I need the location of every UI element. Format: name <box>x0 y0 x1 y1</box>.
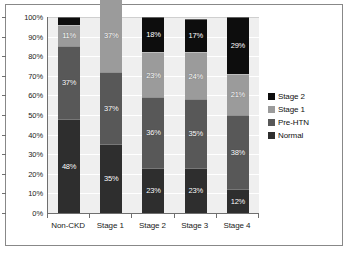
bar-segment-label: 37% <box>104 105 118 113</box>
stacked-bar[interactable]: 35%37%37%11% <box>100 17 122 213</box>
bar-segment[interactable]: 23% <box>142 168 164 213</box>
bar-segment-label: 36% <box>146 129 160 137</box>
y-tick-mark <box>2 17 6 18</box>
bar-segment[interactable]: 48% <box>58 119 80 213</box>
bar-segment-label: 11% <box>62 32 76 40</box>
legend-swatch-icon <box>268 93 275 100</box>
y-tick-mark <box>2 37 6 38</box>
y-tick-mark <box>2 115 6 116</box>
bar-segment-label: 35% <box>104 175 118 183</box>
bar-segment[interactable]: 12% <box>227 189 249 213</box>
bar-segment[interactable]: 37% <box>100 72 122 145</box>
bar-segment[interactable]: 11% <box>58 25 80 47</box>
bar-column: 35%37%37%11% <box>90 17 132 213</box>
bar-segment-label: 37% <box>62 79 76 87</box>
bar-segment[interactable]: 35% <box>185 99 207 168</box>
bar-segment[interactable] <box>58 17 80 25</box>
bar-segment-label: 48% <box>62 163 76 171</box>
legend-swatch-icon <box>268 119 275 126</box>
x-tick-label: Non-CKD <box>51 221 85 230</box>
stacked-bar[interactable]: 23%36%23%18% <box>142 17 164 213</box>
y-axis: 0%10%20%30%40%50%60%70%80%90%100% <box>6 17 43 213</box>
y-tick-mark <box>2 174 6 175</box>
chart-legend: Stage 2Stage 1Pre-HTNNormal <box>268 90 340 142</box>
y-tick-label: 90% <box>28 32 43 41</box>
x-tick-label: Stage 4 <box>223 221 250 230</box>
stacked-bar[interactable]: 12%38%21%29% <box>227 17 249 213</box>
y-tick-mark <box>2 193 6 194</box>
y-tick-label: 0% <box>32 209 43 218</box>
x-tick-mark <box>47 214 48 218</box>
bar-segment-label: 23% <box>188 187 202 195</box>
y-tick-label: 100% <box>24 13 43 22</box>
plot-area: 48%37%11%35%37%37%11%23%36%23%18%23%35%2… <box>47 17 259 214</box>
bar-segment[interactable]: 29% <box>227 17 249 74</box>
chart-frame: 0%10%20%30%40%50%60%70%80%90%100% 48%37%… <box>5 4 343 246</box>
bar-column: 23%35%24%17% <box>175 17 217 213</box>
bar-column: 48%37%11% <box>48 17 90 213</box>
x-tick-mark <box>174 214 175 218</box>
x-tick-label: Stage 1 <box>97 221 124 230</box>
bar-segment-label: 21% <box>231 91 245 99</box>
x-tick-mark <box>89 214 90 218</box>
x-tick-label: Stage 2 <box>139 221 166 230</box>
bar-segment[interactable]: 18% <box>142 17 164 52</box>
bar-segment-label: 35% <box>188 130 202 138</box>
bar-segment[interactable]: 37% <box>100 0 122 72</box>
legend-item[interactable]: Stage 2 <box>268 90 340 103</box>
bar-segment[interactable]: 24% <box>185 52 207 99</box>
bar-segment[interactable]: 21% <box>227 74 249 115</box>
stacked-bar[interactable]: 48%37%11% <box>58 17 80 213</box>
y-tick-label: 50% <box>28 111 43 120</box>
chart-area: 0%10%20%30%40%50%60%70%80%90%100% 48%37%… <box>6 5 344 247</box>
legend-item[interactable]: Stage 1 <box>268 103 340 116</box>
bar-segment[interactable]: 17% <box>185 19 207 52</box>
y-tick-label: 70% <box>28 71 43 80</box>
x-tick-mark <box>258 214 259 218</box>
y-tick-mark <box>2 76 6 77</box>
bar-segment-label: 23% <box>146 187 160 195</box>
y-tick-label: 30% <box>28 150 43 159</box>
y-tick-mark <box>2 154 6 155</box>
x-tick-label: Stage 3 <box>181 221 208 230</box>
y-tick-mark <box>2 56 6 57</box>
legend-item-label: Pre-HTN <box>278 118 309 127</box>
x-tick-mark <box>216 214 217 218</box>
y-tick-label: 80% <box>28 52 43 61</box>
legend-item[interactable]: Normal <box>268 129 340 142</box>
y-tick-mark <box>2 95 6 96</box>
bar-segment[interactable]: 35% <box>100 144 122 213</box>
bar-segment-label: 29% <box>231 42 245 50</box>
bar-segment[interactable]: 37% <box>58 46 80 119</box>
bar-segment-label: 17% <box>188 32 202 40</box>
bar-segment[interactable]: 38% <box>227 115 249 189</box>
chart-figure: 0%10%20%30%40%50%60%70%80%90%100% 48%37%… <box>0 0 348 254</box>
legend-swatch-icon <box>268 106 275 113</box>
y-tick-mark <box>2 135 6 136</box>
bar-segment-label: 38% <box>231 149 245 157</box>
x-tick-mark <box>131 214 132 218</box>
legend-swatch-icon <box>268 132 275 139</box>
bar-column: 12%38%21%29% <box>217 17 259 213</box>
legend-item-label: Stage 2 <box>278 92 305 101</box>
y-tick-label: 60% <box>28 91 43 100</box>
bar-segment[interactable]: 23% <box>142 52 164 97</box>
bar-segment-label: 24% <box>188 73 202 81</box>
bar-segment-label: 23% <box>146 72 160 80</box>
bar-segment[interactable]: 36% <box>142 97 164 168</box>
y-tick-label: 10% <box>28 189 43 198</box>
bar-column: 23%36%23%18% <box>132 17 174 213</box>
y-tick-label: 20% <box>28 169 43 178</box>
legend-item[interactable]: Pre-HTN <box>268 116 340 129</box>
y-tick-label: 40% <box>28 130 43 139</box>
bar-segment-label: 18% <box>146 31 160 39</box>
stacked-bar[interactable]: 23%35%24%17% <box>185 17 207 213</box>
bar-segment-label: 37% <box>104 32 118 40</box>
x-axis: Non-CKDStage 1Stage 2Stage 3Stage 4 <box>47 214 258 236</box>
legend-item-label: Stage 1 <box>278 105 305 114</box>
y-tick-mark <box>2 213 6 214</box>
bar-segment-label: 12% <box>231 198 245 206</box>
legend-item-label: Normal <box>278 131 303 140</box>
bar-segment[interactable]: 23% <box>185 168 207 213</box>
